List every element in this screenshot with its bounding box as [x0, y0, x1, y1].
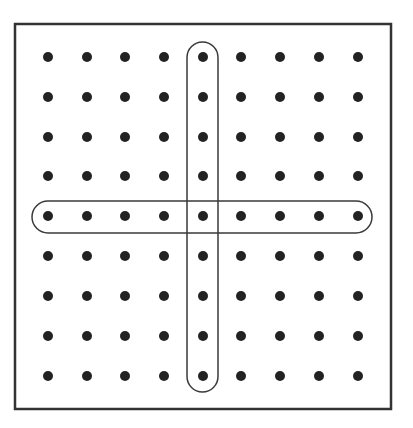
- grid-dot: [236, 171, 246, 181]
- grid-dot: [82, 291, 92, 301]
- grid-dot: [120, 371, 130, 381]
- grid-dot: [159, 331, 169, 341]
- grid-dot: [275, 132, 285, 142]
- grid-dot: [353, 211, 363, 221]
- grid-dot: [82, 331, 92, 341]
- grid-dot: [353, 92, 363, 102]
- grid-dot: [82, 211, 92, 221]
- grid-dot: [314, 371, 324, 381]
- grid-dot: [353, 331, 363, 341]
- grid-dot: [353, 171, 363, 181]
- grid-dot: [198, 291, 208, 301]
- grid-dot: [159, 291, 169, 301]
- grid-dot: [198, 92, 208, 102]
- grid-dot: [43, 171, 53, 181]
- dot-grid-diagram: [0, 0, 413, 428]
- grid-dot: [120, 132, 130, 142]
- grid-dot: [159, 132, 169, 142]
- grid-dot: [82, 92, 92, 102]
- grid-dot: [236, 331, 246, 341]
- grid-dot: [198, 171, 208, 181]
- grid-dot: [275, 52, 285, 62]
- grid-dot: [43, 371, 53, 381]
- grid-dot: [275, 171, 285, 181]
- grid-dot: [120, 211, 130, 221]
- grid-dot: [43, 92, 53, 102]
- grid-dot: [198, 132, 208, 142]
- grid-dot: [314, 171, 324, 181]
- grid-dot: [120, 331, 130, 341]
- grid-dot: [314, 92, 324, 102]
- grid-dot: [236, 251, 246, 261]
- grid-dot: [353, 371, 363, 381]
- grid-dot: [353, 291, 363, 301]
- grid-dot: [314, 211, 324, 221]
- grid-dot: [314, 132, 324, 142]
- grid-dot: [198, 211, 208, 221]
- grid-dot: [43, 331, 53, 341]
- grid-dot: [236, 52, 246, 62]
- grid-dot: [82, 132, 92, 142]
- grid-dot: [236, 291, 246, 301]
- grid-dot: [82, 171, 92, 181]
- grid-dot: [43, 251, 53, 261]
- grid-dot: [159, 371, 169, 381]
- grid-dot: [314, 331, 324, 341]
- grid-dot: [275, 371, 285, 381]
- grid-dot: [43, 132, 53, 142]
- grid-dot: [198, 251, 208, 261]
- grid-dot: [275, 331, 285, 341]
- grid-dot: [120, 251, 130, 261]
- grid-dot: [198, 52, 208, 62]
- grid-dot: [314, 52, 324, 62]
- grid-dot: [43, 211, 53, 221]
- grid-dot: [353, 52, 363, 62]
- grid-dot: [159, 52, 169, 62]
- grid-dot: [43, 52, 53, 62]
- grid-dot: [353, 251, 363, 261]
- grid-dot: [82, 52, 92, 62]
- grid-dot: [82, 371, 92, 381]
- grid-dot: [314, 291, 324, 301]
- grid-dot: [275, 291, 285, 301]
- grid-dot: [82, 251, 92, 261]
- grid-dot: [198, 371, 208, 381]
- grid-dot: [236, 132, 246, 142]
- grid-dot: [120, 92, 130, 102]
- grid-dot: [159, 251, 169, 261]
- grid-dot: [236, 92, 246, 102]
- grid-dot: [236, 371, 246, 381]
- grid-dot: [275, 211, 285, 221]
- grid-dot: [159, 171, 169, 181]
- grid-dot: [275, 251, 285, 261]
- grid-dot: [159, 92, 169, 102]
- grid-dot: [120, 52, 130, 62]
- grid-dot: [314, 251, 324, 261]
- grid-dot: [353, 132, 363, 142]
- grid-dot: [236, 211, 246, 221]
- grid-dot: [120, 291, 130, 301]
- grid-dot: [198, 331, 208, 341]
- grid-dot: [120, 171, 130, 181]
- grid-dot: [275, 92, 285, 102]
- grid-dot: [159, 211, 169, 221]
- grid-dot: [43, 291, 53, 301]
